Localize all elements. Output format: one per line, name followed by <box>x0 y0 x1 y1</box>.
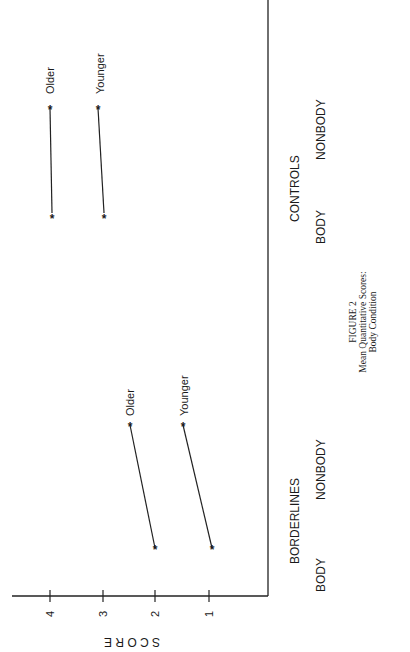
controls-nonbody-label: NONBODY <box>314 99 328 160</box>
controls-older-line <box>50 108 52 213</box>
borderlines-younger-body-marker: * <box>210 543 215 557</box>
tick-label-2: 2 <box>149 611 161 617</box>
borderlines-younger-nonbody-marker: * <box>181 420 186 434</box>
borderlines-nonbody-label: NONBODY <box>314 439 328 500</box>
controls-younger-body-marker: * <box>102 212 107 226</box>
borderlines-younger-label: Younger <box>178 375 190 416</box>
controls-body-label: BODY <box>314 210 328 244</box>
figure-number: FIGURE 2 <box>348 301 358 343</box>
borderlines-older-nonbody-marker: * <box>128 420 133 434</box>
group-label-borderlines: BORDERLINES <box>288 478 302 564</box>
caption-line-2: Body Condition <box>368 291 378 352</box>
score-axis-title: S C O R E <box>104 635 160 649</box>
figure-page: 4 3 2 1 S C O R E * * * * Older Younger … <box>0 0 410 652</box>
borderlines-older-body-marker: * <box>153 543 158 557</box>
controls-older-body-marker: * <box>50 212 55 226</box>
borderlines-older-line <box>130 425 155 548</box>
chart-svg: 4 3 2 1 S C O R E * * * * Older Younger … <box>0 0 410 652</box>
tick-label-4: 4 <box>44 611 56 617</box>
controls-younger-line <box>98 108 104 213</box>
controls-older-nonbody-marker: * <box>48 103 53 117</box>
tick-label-3: 3 <box>97 611 109 617</box>
tick-label-1: 1 <box>203 611 215 617</box>
borderlines-older-label: Older <box>124 389 136 416</box>
controls-younger-nonbody-marker: * <box>96 103 101 117</box>
borderlines-younger-line <box>183 425 212 548</box>
group-label-controls: CONTROLS <box>288 155 302 222</box>
borderlines-body-label: BODY <box>314 558 328 592</box>
controls-younger-label: Younger <box>94 53 106 94</box>
caption-line-1: Mean Quantitative Scores: <box>358 271 368 372</box>
controls-older-label: Older <box>44 67 56 94</box>
